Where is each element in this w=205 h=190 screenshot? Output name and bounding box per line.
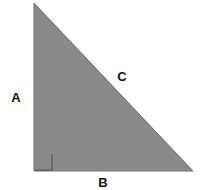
geometry-diagram: A B C [0, 0, 205, 190]
right-triangle-figure [0, 0, 205, 190]
side-label-c: C [115, 70, 129, 83]
side-label-a: A [9, 91, 23, 104]
side-label-b: B [96, 176, 110, 189]
